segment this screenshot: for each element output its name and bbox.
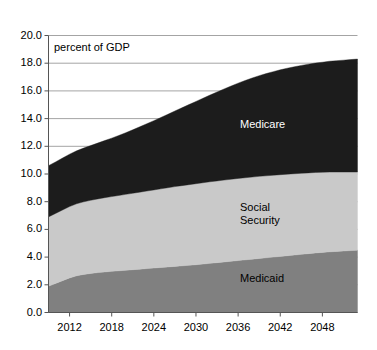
- y-tick-label: 12.0: [4, 140, 42, 151]
- series-label-medicare: Medicare: [240, 118, 285, 131]
- x-tick-label: 2012: [46, 322, 94, 333]
- y-tick-label: 4.0: [4, 251, 42, 262]
- area-series-group: [49, 59, 358, 312]
- x-tick-label: 2024: [130, 322, 178, 333]
- series-label-social-security: Social Security: [240, 201, 280, 227]
- y-tick-label: 0.0: [4, 307, 42, 318]
- series-label-medicaid: Medicaid: [240, 272, 284, 285]
- y-tick-label: 6.0: [4, 223, 42, 234]
- y-tick-label: 2.0: [4, 279, 42, 290]
- x-tick-label: 2036: [214, 322, 262, 333]
- y-tick-label: 20.0: [4, 30, 42, 41]
- y-tick-label: 10.0: [4, 168, 42, 179]
- x-tick-label: 2042: [256, 322, 304, 333]
- y-tick-label: 14.0: [4, 113, 42, 124]
- plot-annotation: percent of GDP: [54, 41, 130, 53]
- y-tick-label: 8.0: [4, 196, 42, 207]
- x-tick-label: 2018: [88, 322, 136, 333]
- x-tick-label: 2048: [298, 322, 346, 333]
- series-label-social-security-line2: Security: [240, 214, 280, 226]
- stacked-area-chart: 0.02.04.06.08.010.012.014.016.018.020.0 …: [0, 0, 377, 350]
- series-label-social-security-line1: Social: [240, 201, 270, 213]
- y-tick-label: 16.0: [4, 85, 42, 96]
- x-tick-label: 2030: [172, 322, 220, 333]
- y-tick-label: 18.0: [4, 57, 42, 68]
